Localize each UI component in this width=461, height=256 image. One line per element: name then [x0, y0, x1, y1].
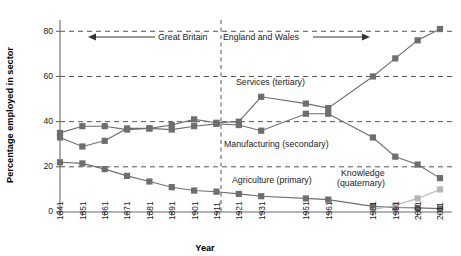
left-arrow-icon — [88, 34, 96, 41]
knowledge-series-label-line1: Knowledge — [341, 168, 385, 178]
x-tick-label-1841: 1841 — [55, 201, 65, 220]
y-tick-label-80: 80 — [43, 26, 53, 36]
data-point-marker — [102, 166, 108, 172]
data-point-marker — [102, 123, 108, 129]
data-point-marker — [258, 128, 264, 134]
y-tick-label-60: 60 — [43, 71, 53, 81]
data-point-marker — [370, 73, 376, 79]
data-point-marker — [191, 123, 197, 129]
x-tick-label-1931: 1931 — [257, 201, 267, 220]
data-point-marker — [102, 138, 108, 144]
data-point-marker — [415, 37, 421, 43]
data-point-marker — [370, 134, 376, 140]
data-point-marker — [213, 189, 219, 195]
x-tick-label-1851: 1851 — [78, 201, 88, 220]
data-point-marker — [146, 125, 152, 131]
data-point-marker — [415, 161, 421, 167]
y-axis-title: Percentage employed in sector — [5, 47, 15, 183]
x-tick-label-1891: 1891 — [167, 201, 177, 220]
data-point-marker — [124, 173, 130, 179]
x-tick-label-1861: 1861 — [100, 201, 110, 220]
data-point-marker — [415, 195, 421, 201]
data-point-marker — [213, 121, 219, 127]
x-tick-label-1881: 1881 — [145, 201, 155, 220]
data-point-marker — [236, 122, 242, 128]
england-wales-label: England and Wales — [223, 32, 300, 42]
knowledge-series-label-line2: (quaternary) — [337, 178, 385, 188]
data-point-marker — [169, 126, 175, 132]
x-tick-label-1951: 1951 — [301, 201, 311, 220]
data-point-marker — [303, 195, 309, 201]
data-point-marker — [258, 94, 264, 100]
manufacturing-series-label: Manufacturing (secondary) — [224, 139, 329, 149]
y-tick-label-40: 40 — [43, 116, 53, 126]
x-tick-label-1961: 1961 — [324, 201, 334, 220]
data-point-marker — [303, 111, 309, 117]
x-tick-label-2011: 2011 — [435, 202, 445, 220]
data-point-marker — [146, 178, 152, 184]
x-axis-title: Year — [195, 243, 215, 253]
data-point-marker — [57, 134, 63, 140]
x-tick-label-1981: 1981 — [368, 201, 378, 220]
data-point-marker — [191, 187, 197, 193]
y-axis-ticks: 020406080 — [43, 26, 60, 217]
chart-container: Percentage employed in sector 020406080 … — [0, 0, 461, 256]
data-point-marker — [392, 55, 398, 61]
data-point-marker — [258, 193, 264, 199]
y-tick-label-0: 0 — [48, 206, 53, 216]
x-axis-ticks: 1841185118611871188118911901191119211931… — [55, 201, 445, 220]
data-point-marker — [191, 116, 197, 122]
great-britain-label: Great Britain — [158, 32, 207, 42]
region-span-annotation: Great Britain England and Wales — [88, 32, 370, 42]
right-arrow-icon — [362, 34, 370, 41]
data-point-marker — [437, 26, 443, 32]
x-tick-label-1991: 1991 — [391, 201, 401, 220]
data-point-marker — [57, 159, 63, 165]
data-point-marker — [303, 100, 309, 106]
data-point-marker — [169, 184, 175, 190]
data-point-marker — [325, 111, 331, 117]
data-point-marker — [437, 186, 443, 192]
data-point-marker — [392, 154, 398, 160]
x-tick-label-1871: 1871 — [122, 201, 132, 220]
data-point-marker — [437, 175, 443, 181]
data-point-marker — [236, 191, 242, 197]
data-point-marker — [79, 160, 85, 166]
x-tick-label-1911: 1911 — [212, 202, 222, 220]
y-tick-label-20: 20 — [43, 161, 53, 171]
data-point-marker — [124, 125, 130, 131]
services-series-label: Services (tertiary) — [236, 77, 305, 87]
employment-by-sector-line-chart: Percentage employed in sector 020406080 … — [0, 0, 461, 256]
agriculture-series-label: Agriculture (primary) — [232, 175, 312, 185]
x-tick-label-1921: 1921 — [234, 201, 244, 220]
x-tick-label-2001: 2001 — [413, 201, 423, 220]
data-point-marker — [325, 105, 331, 111]
data-point-marker — [79, 123, 85, 129]
x-tick-label-1901: 1901 — [190, 201, 200, 220]
data-point-marker — [79, 143, 85, 149]
